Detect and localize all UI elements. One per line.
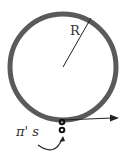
injection-curve-arrow: [38, 139, 62, 150]
injection-arrowhead-icon: [60, 136, 66, 142]
particle-lower: [60, 128, 65, 133]
arrowhead-icon: [110, 115, 119, 122]
storage-ring-diagram: R π' s: [0, 0, 129, 159]
particle-label: π' s: [15, 124, 39, 139]
radius-label: R: [70, 23, 81, 38]
